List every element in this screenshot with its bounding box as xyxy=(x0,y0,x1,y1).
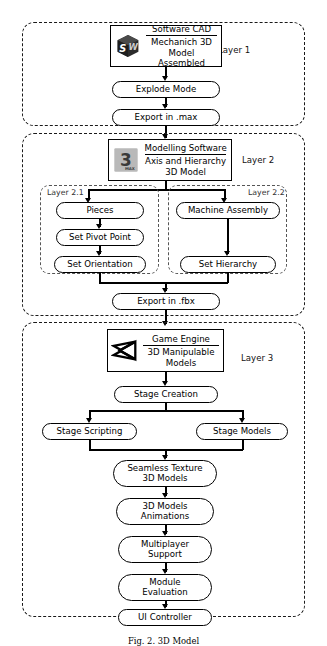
app-subtitle-line-2: 3D Model xyxy=(165,166,206,177)
connector-l2-merge-bar xyxy=(99,282,228,284)
layer-2-1-label: Layer 2.1 xyxy=(47,188,84,197)
node-label: Export in .max xyxy=(131,113,202,123)
solidworks-icon: S W xyxy=(111,26,144,66)
connector-l3-split-bar xyxy=(89,410,243,412)
node-label: Machine Assembly xyxy=(184,206,272,216)
node-label: Stage Models xyxy=(209,427,275,437)
connector-l22-a xyxy=(227,219,229,254)
app-subtitle-line-1: 3D Manipulable xyxy=(147,346,214,357)
3dsmax-icon: 3 MAX xyxy=(109,140,142,180)
node-label: Module Evaluation xyxy=(138,578,191,597)
node-set-orientation: Set Orientation xyxy=(54,256,146,273)
unity-icon xyxy=(108,330,141,371)
svg-text:MAX: MAX xyxy=(124,166,134,171)
node-module-evaluation: Module Evaluation xyxy=(118,574,212,601)
app-box-3dsmax: 3 MAX Modelling Software Axis and Hierar… xyxy=(108,139,232,181)
node-stage-creation: Stage Creation xyxy=(114,386,218,403)
node-label: 3D Models Animations xyxy=(137,502,193,521)
node-label: Set Orientation xyxy=(63,260,136,270)
app-box-solidworks-text: Software CAD Mechanich 3D Model Assemble… xyxy=(144,26,221,66)
layer-3-label: Layer 3 xyxy=(241,353,273,363)
node-set-pivot-point: Set Pivot Point xyxy=(56,229,144,246)
layer-2-2-label: Layer 2.2 xyxy=(248,188,285,197)
svg-text:W: W xyxy=(128,42,138,52)
app-subtitle-line-2: Model Assembled xyxy=(144,47,219,68)
node-set-hierarchy: Set Hierarchy xyxy=(180,256,276,273)
app-title: Software CAD xyxy=(146,24,217,36)
node-export-fbx: Export in .fbx xyxy=(112,293,220,310)
app-box-solidworks: S W Software CAD Mechanich 3D Model Asse… xyxy=(110,25,222,67)
node-machine-assembly: Machine Assembly xyxy=(176,202,280,219)
node-seamless-texture-3d-models: Seamless Texture 3D Models xyxy=(113,460,217,487)
node-label: Pieces xyxy=(82,206,117,216)
node-stage-scripting: Stage Scripting xyxy=(42,423,137,440)
node-explode-mode: Explode Mode xyxy=(112,81,220,98)
app-subtitle-line-2: Models xyxy=(166,357,196,368)
node-label: Seamless Texture 3D Models xyxy=(123,464,206,483)
node-label: Set Hierarchy xyxy=(195,260,261,270)
flowchart-canvas: Layer 1 S W Software CAD Mechanich 3D Mo… xyxy=(0,0,327,646)
app-subtitle-line-1: Mechanich 3D xyxy=(151,36,212,47)
node-label: Stage Creation xyxy=(130,390,202,400)
node-pieces: Pieces xyxy=(56,202,144,219)
layer-1-label: Layer 1 xyxy=(218,45,250,55)
app-box-unity-text: Game Engine 3D Manipulable Models xyxy=(141,330,223,371)
svg-text:S: S xyxy=(119,43,126,54)
node-ui-controller: UI Controller xyxy=(118,609,212,626)
app-title: Game Engine xyxy=(143,334,218,346)
node-label: Multiplayer Support xyxy=(137,540,193,559)
node-multiplayer-support: Multiplayer Support xyxy=(118,536,212,563)
node-label: Set Pivot Point xyxy=(65,233,135,243)
node-label: Export in .fbx xyxy=(133,297,199,307)
layer-2-label: Layer 2 xyxy=(242,155,274,165)
node-label: Explode Mode xyxy=(132,85,201,95)
node-label: Stage Scripting xyxy=(53,427,127,437)
app-box-unity: Game Engine 3D Manipulable Models xyxy=(107,329,224,372)
app-box-3dsmax-text: Modelling Software Axis and Hierarchy 3D… xyxy=(142,140,231,180)
app-subtitle-line-1: Axis and Hierarchy xyxy=(145,155,226,166)
node-3d-models-animations: 3D Models Animations xyxy=(116,498,214,525)
app-title: Modelling Software xyxy=(145,143,227,155)
node-label: UI Controller xyxy=(134,613,196,623)
node-export-max: Export in .max xyxy=(112,109,220,126)
figure-caption: Fig. 2. 3D Model xyxy=(0,636,327,646)
node-stage-models: Stage Models xyxy=(196,423,288,440)
